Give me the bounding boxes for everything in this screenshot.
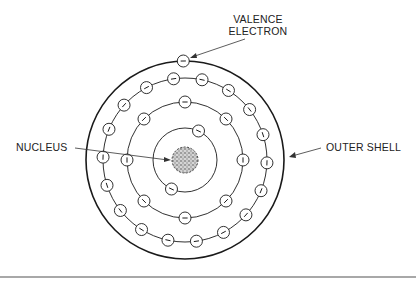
valence-label-line1: VALENCE bbox=[223, 13, 293, 25]
electron-icon bbox=[138, 113, 150, 125]
bottom-divider bbox=[0, 276, 416, 278]
nucleus-arrowhead-icon bbox=[164, 157, 171, 162]
electron-icon bbox=[179, 96, 191, 108]
valence-electron-label: VALENCE ELECTRON bbox=[223, 13, 293, 37]
nucleus-label: NUCLEUS bbox=[16, 141, 68, 153]
electron-icon bbox=[103, 123, 115, 135]
electron-icon bbox=[121, 154, 133, 166]
electron-icon bbox=[193, 125, 205, 137]
electron-icon bbox=[240, 209, 252, 221]
outer-shell-arrowhead-icon bbox=[289, 152, 296, 158]
electron-icon bbox=[141, 82, 153, 94]
electron-icon bbox=[162, 234, 174, 246]
electron-icon bbox=[179, 212, 191, 224]
electron-icon bbox=[97, 151, 109, 163]
valence-leader-line bbox=[192, 39, 245, 57]
valence-arrowhead-icon bbox=[190, 53, 197, 58]
electron-icon bbox=[255, 185, 267, 197]
outer-shell-label: OUTER SHELL bbox=[326, 141, 401, 153]
electron-icon bbox=[220, 113, 232, 125]
outer-shell-leader-line bbox=[292, 148, 321, 156]
nucleus-icon bbox=[172, 147, 198, 173]
electron-icon bbox=[118, 99, 130, 111]
leader-lines bbox=[75, 39, 321, 162]
valence-label-line2: ELECTRON bbox=[223, 25, 293, 37]
electron-icon bbox=[244, 104, 256, 116]
electron-icon bbox=[196, 74, 208, 86]
valence-electron-icon bbox=[177, 55, 189, 67]
electron-icon bbox=[217, 226, 229, 238]
electron-icon bbox=[136, 224, 148, 236]
electron-icon bbox=[237, 154, 249, 166]
electron-icon bbox=[165, 183, 177, 195]
electron-icon bbox=[101, 179, 113, 191]
electron-icon bbox=[261, 157, 273, 169]
electron-icon bbox=[257, 129, 269, 141]
electron-icon bbox=[168, 73, 180, 85]
electron-icon bbox=[114, 204, 126, 216]
electron-icon bbox=[190, 235, 202, 247]
electron-icon bbox=[138, 195, 150, 207]
electron-icon bbox=[220, 195, 232, 207]
electron-icon bbox=[222, 84, 234, 96]
nucleus bbox=[172, 147, 198, 173]
